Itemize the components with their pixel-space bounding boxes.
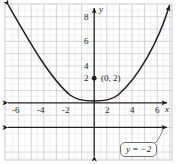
equation-callout-box: y = −2 [120, 142, 157, 157]
x-tick-neg6: -6 [12, 106, 20, 115]
y-tick-2: 2 [84, 74, 89, 83]
x-tick-2: 2 [105, 106, 110, 115]
x-tick-6: 6 [155, 106, 160, 115]
graph-figure: y x 8 6 4 2 -6 -4 -2 2 4 6 (0, 2) y = −2 [0, 0, 177, 164]
x-tick-neg2: -2 [62, 106, 70, 115]
x-axis-label: x [165, 105, 169, 114]
x-tick-neg4: -4 [37, 106, 45, 115]
y-tick-8: 8 [84, 13, 89, 22]
y-tick-4: 4 [84, 62, 89, 71]
point-label-0-2: (0, 2) [101, 74, 121, 83]
point-marker-0-2 [92, 76, 97, 81]
x-tick-4: 4 [130, 106, 135, 115]
coordinate-plane-svg [0, 0, 177, 164]
y-tick-6: 6 [84, 37, 89, 46]
plot-background [5, 4, 172, 160]
y-axis-label: y [99, 5, 103, 14]
